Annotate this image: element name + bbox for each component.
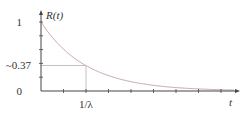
x-axis-label: t	[229, 96, 233, 108]
y-axis-arrow	[39, 10, 43, 15]
series-line-r-of-t	[41, 22, 234, 90]
y-tick-label-037: ~0.37	[6, 59, 32, 71]
axes	[39, 10, 240, 93]
x-axis-arrow	[235, 89, 240, 93]
ticks	[39, 22, 221, 93]
guide-lines	[41, 65, 86, 91]
y-tick-label-0: 0	[17, 85, 23, 97]
y-axis-label: R(t)	[45, 9, 63, 22]
y-tick-label-1: 1	[17, 16, 23, 28]
x-tick-label-1-over-lambda: 1/λ	[79, 98, 94, 110]
reliability-chart: R(t) t 1 ~0.37 0 1/λ	[0, 0, 248, 113]
